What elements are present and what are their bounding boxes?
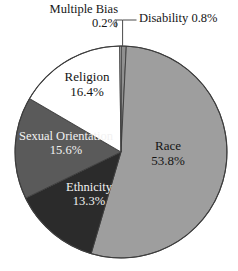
slice-label-ethnicity: Ethnicity 13.3% xyxy=(50,180,128,208)
callout-disability-text: Disability 0.8% xyxy=(139,11,217,25)
pie-chart: Multiple Bias 0.2% Disability 0.8% Relig… xyxy=(0,0,238,271)
slice-label-religion-value: 16.4% xyxy=(47,85,127,100)
slice-label-race-name: Race xyxy=(135,139,201,154)
callout-multiple-bias-value: 0.2% xyxy=(46,17,118,31)
callout-multiple-bias-name: Multiple Bias xyxy=(50,2,118,16)
slice-label-religion-name: Religion xyxy=(47,70,127,85)
callout-disability: Disability 0.8% xyxy=(139,12,217,26)
slice-label-religion: Religion 16.4% xyxy=(47,70,127,99)
callout-multiple-bias: Multiple Bias 0.2% xyxy=(46,3,118,30)
leader-line-disability xyxy=(123,20,137,47)
slice-label-ethnicity-value: 13.3% xyxy=(50,194,128,208)
slice-label-sexual-orientation-name: Sexual Orientation xyxy=(10,129,122,143)
slice-label-ethnicity-name: Ethnicity xyxy=(50,180,128,194)
slice-label-sexual-orientation: Sexual Orientation 15.6% xyxy=(10,129,122,157)
leader-lines-group xyxy=(116,20,136,47)
slice-label-race-value: 53.8% xyxy=(135,154,201,169)
slice-label-sexual-orientation-value: 15.6% xyxy=(10,143,122,157)
slice-label-race: Race 53.8% xyxy=(135,139,201,168)
